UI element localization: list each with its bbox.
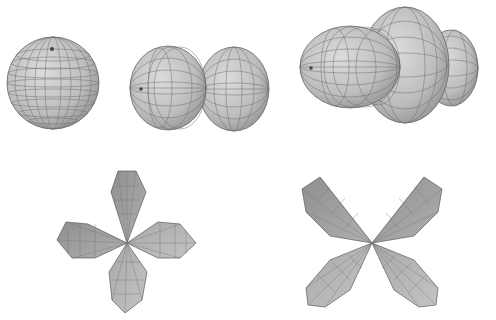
orbital-figure xyxy=(0,0,496,320)
pole-mark xyxy=(139,87,143,91)
d-orbital-diagonal xyxy=(302,177,442,307)
pole-mark xyxy=(50,47,54,51)
lobe-down xyxy=(109,243,147,313)
dz2-orbital xyxy=(300,7,478,123)
d-orbital-axes xyxy=(57,171,196,313)
lobe-upper-left xyxy=(302,177,372,243)
s-orbital-sphere xyxy=(7,37,99,129)
p-orbital-dumbbell xyxy=(130,46,269,131)
pole-mark xyxy=(309,66,313,70)
lobe-upper-right xyxy=(372,177,442,243)
